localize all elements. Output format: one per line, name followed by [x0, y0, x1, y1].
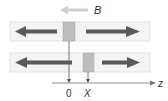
- bottom-panel: [10, 53, 150, 72]
- field-b-arrow: [60, 6, 88, 14]
- z-axis-label: z: [157, 78, 163, 89]
- top-panel: [10, 22, 150, 41]
- field-b-label: B: [94, 4, 101, 16]
- z-axis: [52, 81, 156, 86]
- top-block: [63, 22, 75, 41]
- bottom-block: [83, 53, 94, 72]
- origin-label: 0: [66, 88, 72, 99]
- position-label: X: [83, 88, 91, 99]
- diagram-canvas: B z 0 X: [0, 0, 168, 101]
